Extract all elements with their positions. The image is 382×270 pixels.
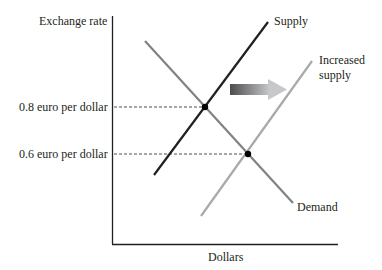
demand-label: Demand — [297, 200, 338, 214]
x-axis-label: Dollars — [208, 250, 243, 264]
demand-curve — [145, 41, 293, 203]
exchange-rate-diagram — [0, 0, 382, 270]
supply-label: Supply — [274, 14, 308, 28]
increased-supply-label-line2: supply — [319, 68, 351, 82]
increased-supply-label-line1: Increased — [319, 53, 365, 67]
tick-label-0-8: 0.8 euro per dollar — [19, 100, 108, 114]
y-axis-label: Exchange rate — [39, 14, 107, 28]
equilibrium-point-new — [245, 151, 251, 157]
equilibrium-point-initial — [202, 104, 208, 110]
supply-curve — [154, 22, 268, 175]
tick-label-0-6: 0.6 euro per dollar — [19, 147, 108, 161]
shift-arrow-icon — [230, 79, 287, 100]
